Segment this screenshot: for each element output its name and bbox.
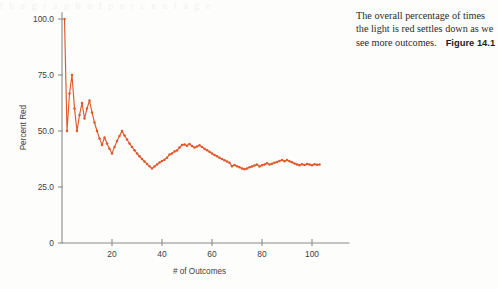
data-point — [198, 144, 201, 147]
data-point — [126, 138, 129, 141]
data-point — [288, 160, 291, 163]
data-point — [293, 162, 296, 165]
data-point — [81, 102, 84, 105]
data-point — [263, 163, 266, 166]
data-point — [301, 163, 304, 166]
data-point — [151, 167, 154, 170]
data-point — [261, 164, 264, 167]
y-axis: 025.050.075.0100.0 — [33, 12, 63, 248]
data-point — [163, 158, 166, 161]
data-point — [193, 146, 196, 149]
x-tick-label-40: 40 — [157, 249, 167, 259]
data-point — [296, 163, 299, 166]
data-point — [223, 159, 226, 162]
y-axis-title: Percent Red — [19, 104, 28, 150]
data-point — [156, 163, 159, 166]
data-point — [183, 143, 186, 146]
data-point — [153, 165, 156, 168]
data-point — [241, 167, 244, 170]
data-point — [306, 163, 309, 166]
data-point — [271, 162, 274, 165]
data-point — [243, 168, 246, 171]
data-point — [316, 164, 319, 167]
data-point — [73, 107, 76, 110]
data-point — [273, 162, 276, 165]
data-point — [278, 160, 281, 163]
y-tick-label-25: 25.0 — [38, 182, 55, 192]
figure-number-label: Figure 14.1 — [446, 37, 496, 48]
data-point — [148, 165, 151, 168]
data-point — [101, 144, 104, 147]
data-point — [178, 146, 181, 149]
data-point — [106, 142, 109, 145]
data-point — [173, 150, 176, 153]
data-point — [133, 149, 136, 152]
data-point — [171, 152, 174, 155]
data-point — [291, 161, 294, 164]
data-point — [248, 166, 251, 169]
data-point — [233, 164, 236, 167]
data-point — [308, 163, 311, 166]
data-point — [66, 130, 69, 133]
data-point — [266, 162, 269, 165]
data-point — [283, 160, 286, 163]
data-point — [191, 145, 194, 148]
figure-page: t h e g r a p h o f p e r c e n t a g e … — [0, 0, 498, 289]
data-point — [121, 130, 124, 133]
y-tick-label-50: 50.0 — [38, 126, 55, 136]
data-point — [253, 164, 256, 167]
data-point — [298, 164, 301, 167]
y-tick-label-100: 100.0 — [33, 14, 54, 24]
data-point — [256, 163, 259, 166]
x-tick-label-100: 100 — [305, 249, 319, 259]
data-point — [141, 158, 144, 161]
data-point — [176, 149, 179, 152]
data-point — [161, 160, 164, 163]
data-point — [76, 130, 79, 133]
data-point — [181, 144, 184, 147]
data-point — [136, 152, 139, 155]
data-point — [68, 92, 71, 95]
data-point — [303, 164, 306, 167]
data-point — [91, 111, 94, 114]
y-tick-label-75: 75.0 — [38, 70, 55, 80]
data-point — [208, 151, 211, 154]
data-point — [251, 165, 254, 168]
data-point — [206, 149, 209, 152]
data-point — [116, 140, 119, 143]
data-point — [166, 156, 169, 159]
data-point — [123, 134, 126, 137]
x-tick-label-80: 80 — [257, 249, 267, 259]
data-point — [218, 156, 221, 159]
y-tick-label-0: 0 — [49, 238, 54, 248]
data-point — [318, 163, 321, 166]
data-point — [118, 135, 121, 138]
x-tick-label-60: 60 — [207, 249, 217, 259]
data-point — [143, 160, 146, 163]
data-point — [108, 147, 111, 150]
data-point — [201, 146, 204, 149]
data-point — [88, 99, 91, 102]
data-point — [281, 159, 284, 162]
data-point — [268, 163, 271, 166]
data-point — [111, 152, 114, 155]
data-point — [186, 145, 189, 148]
data-point — [96, 130, 99, 133]
data-point — [86, 107, 89, 110]
data-point — [286, 159, 289, 162]
data-point — [63, 18, 66, 21]
data-point — [146, 163, 149, 166]
data-point — [276, 161, 279, 164]
data-point — [226, 160, 229, 163]
data-point — [113, 146, 116, 149]
data-point — [236, 165, 239, 168]
data-point — [221, 158, 224, 161]
data-point — [196, 145, 199, 148]
data-point — [211, 152, 214, 155]
data-point — [93, 121, 96, 124]
data-point — [238, 166, 241, 169]
chart-canvas: 025.050.075.0100.0 20406080100 Percent R… — [0, 0, 380, 289]
line-chart: 025.050.075.0100.0 20406080100 Percent R… — [0, 0, 380, 289]
data-point — [103, 136, 106, 139]
data-series-percent-red — [63, 18, 321, 171]
